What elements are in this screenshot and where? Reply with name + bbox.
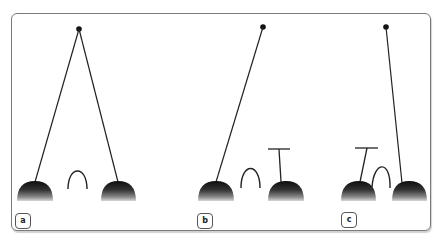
cord bbox=[216, 27, 263, 182]
t-bar-stem bbox=[279, 149, 281, 182]
dome-right-icon bbox=[392, 181, 427, 201]
arch-icon bbox=[68, 171, 87, 189]
panel-c bbox=[341, 24, 427, 201]
arch-icon bbox=[372, 167, 390, 188]
arch-icon bbox=[241, 169, 260, 189]
panel-label-c: c bbox=[341, 212, 357, 228]
dome-left-icon bbox=[341, 181, 376, 201]
diagram-canvas bbox=[0, 0, 445, 242]
panel-b bbox=[198, 24, 304, 201]
dome-right-icon bbox=[268, 181, 304, 201]
dome-right-icon bbox=[101, 181, 136, 201]
cord-right bbox=[79, 29, 118, 182]
cord-left bbox=[35, 29, 79, 182]
cord bbox=[386, 27, 402, 183]
panel-a bbox=[17, 26, 136, 201]
panel-label-a: a bbox=[15, 213, 31, 229]
panel-label-b: b bbox=[197, 213, 213, 229]
dome-left-icon bbox=[198, 181, 234, 201]
t-bar-stem bbox=[360, 148, 367, 182]
dome-left-icon bbox=[17, 181, 53, 201]
